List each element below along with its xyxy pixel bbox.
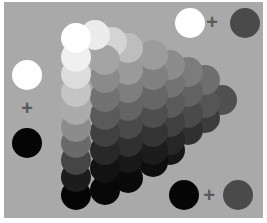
diagram-panel: +++ — [4, 2, 263, 218]
tint-right-circle — [230, 8, 260, 38]
image-frame: +++ — [0, 0, 267, 223]
tint-plus-icon: + — [204, 12, 220, 32]
tint-left-circle — [175, 8, 205, 38]
white-black-right-circle — [12, 128, 42, 158]
shade-left-circle — [169, 180, 199, 210]
shade-plus-icon: + — [201, 185, 217, 205]
shade-right-circle — [223, 180, 253, 210]
color-swatch-circle — [61, 23, 91, 53]
white-black-plus-icon: + — [19, 98, 35, 118]
white-black-left-circle — [12, 60, 42, 90]
